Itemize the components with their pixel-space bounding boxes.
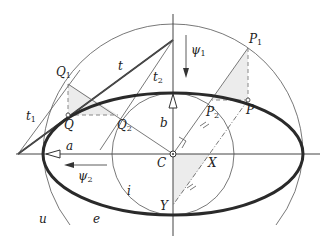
label-a: a [66, 140, 73, 152]
point-c-inner [172, 153, 174, 155]
label-psi1: ψ1 [191, 44, 206, 58]
label-x: X [208, 157, 217, 169]
label-b: b [160, 117, 168, 129]
arrow-a-head [46, 150, 60, 158]
label-p2: P2 [206, 106, 219, 120]
label-p: P [246, 104, 254, 116]
point-p [246, 98, 250, 102]
label-q2: Q2 [117, 119, 132, 133]
label-t: t [118, 60, 123, 72]
label-q1: Q1 [56, 66, 71, 80]
right-angle-mark [179, 137, 186, 148]
label-y: Y [160, 200, 168, 212]
point-q [66, 113, 70, 117]
label-q: Q [64, 119, 74, 131]
label-c: C [157, 157, 166, 169]
tangent-t2 [18, 40, 173, 154]
label-e: e [93, 213, 100, 225]
label-u: u [39, 213, 47, 225]
label-psi2: ψ2 [78, 170, 93, 184]
label-t2: t2 [153, 71, 163, 85]
ellipse-construction-diagram: Q1 Q Q2 P1 P P2 t t1 t2 ψ1 ψ2 a b C X Y … [0, 0, 331, 240]
label-i: i [127, 185, 131, 197]
arrow-psi2-head [64, 162, 74, 168]
arrow-b-head [169, 94, 177, 108]
label-p1: P1 [249, 33, 262, 47]
label-t1: t1 [26, 110, 36, 124]
arrow-psi1-head [183, 68, 189, 78]
